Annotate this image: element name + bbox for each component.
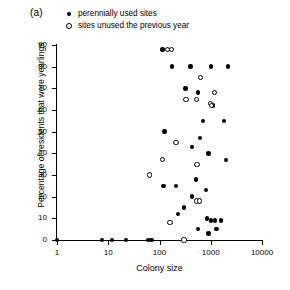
y-tick	[52, 67, 56, 68]
data-point-open	[173, 140, 178, 145]
y-tick	[52, 88, 56, 89]
data-point-filled	[196, 90, 200, 94]
x-tick	[262, 241, 263, 245]
data-point-open	[181, 237, 186, 242]
legend-item-unused: sites unused the previous year	[63, 20, 283, 31]
data-point-filled	[206, 151, 210, 155]
data-point-filled	[149, 238, 153, 242]
data-point-open	[169, 47, 174, 52]
data-point-filled	[110, 238, 114, 242]
y-tick	[52, 197, 56, 198]
filled-circle-icon	[63, 12, 75, 16]
x-tick-label: 10	[104, 248, 113, 257]
x-tick-label: 1000	[202, 248, 220, 257]
y-tick	[52, 132, 56, 133]
data-point-filled	[219, 218, 223, 222]
data-point-open	[167, 220, 172, 225]
legend-label-perennial: perennially used sites	[75, 8, 157, 19]
data-point-open	[194, 97, 199, 102]
data-point-filled	[100, 238, 104, 242]
data-point-filled	[170, 64, 174, 68]
data-point-filled	[182, 205, 186, 209]
x-tick	[160, 241, 161, 245]
data-point-filled	[55, 238, 59, 242]
data-point-filled	[160, 47, 164, 51]
data-point-filled	[124, 238, 128, 242]
data-point-filled	[209, 64, 213, 68]
panel-label: (a)	[30, 7, 43, 18]
y-axis-title: Percentage of residents that were yearli…	[36, 30, 46, 220]
data-point-filled	[194, 177, 198, 181]
x-axis-title: Colony size	[56, 263, 263, 273]
plot-area	[57, 45, 262, 240]
data-point-open	[197, 198, 202, 203]
x-tick-label: 1	[55, 248, 59, 257]
data-point-filled	[183, 86, 187, 90]
legend-label-unused: sites unused the previous year	[75, 20, 189, 31]
data-point-open	[183, 97, 188, 102]
data-point-filled	[162, 129, 166, 133]
data-point-open	[194, 162, 199, 167]
open-circle-icon	[63, 23, 75, 29]
data-point-filled	[190, 145, 194, 149]
data-point-filled	[161, 184, 165, 188]
legend-item-perennial: perennially used sites	[63, 8, 283, 19]
data-point-filled	[222, 119, 226, 123]
x-tick-label: 10000	[251, 248, 273, 257]
scatter-plot-figure: (a) perennially used sites sites unused …	[0, 0, 290, 290]
data-point-filled	[206, 231, 210, 235]
x-tick	[211, 241, 212, 245]
y-tick	[52, 218, 56, 219]
x-tick	[108, 241, 109, 245]
chart-legend: perennially used sites sites unused the …	[63, 8, 283, 32]
data-point-filled	[201, 119, 205, 123]
data-point-filled	[213, 218, 217, 222]
y-tick	[52, 45, 56, 46]
y-tick	[52, 153, 56, 154]
x-tick-label: 100	[153, 248, 166, 257]
y-tick	[52, 175, 56, 176]
y-tick-label: 0	[43, 236, 47, 244]
data-point-filled	[214, 227, 218, 231]
data-point-filled	[188, 64, 192, 68]
y-tick	[52, 110, 56, 111]
